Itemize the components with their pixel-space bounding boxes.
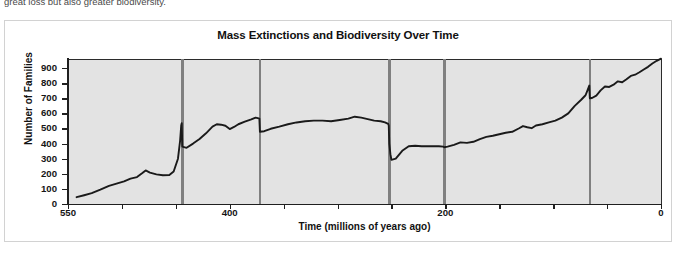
biodiversity-curve	[68, 59, 661, 204]
y-tick-mark	[62, 159, 67, 160]
y-tick-label: 200	[23, 169, 57, 179]
y-tick-mark	[62, 174, 67, 175]
x-axis-label: Time (millions of years ago)	[68, 221, 661, 232]
y-tick-mark	[62, 189, 67, 190]
y-tick-mark	[62, 113, 67, 114]
x-tick-mark	[553, 204, 554, 209]
x-tick-mark	[176, 204, 177, 209]
x-tick-mark	[391, 204, 392, 209]
y-tick-mark	[62, 83, 67, 84]
x-tick-mark	[338, 204, 339, 209]
y-tick-mark	[62, 144, 67, 145]
x-tick-label: 200	[423, 207, 467, 218]
x-tick-label: 400	[208, 207, 252, 218]
x-tick-label: 0	[639, 207, 681, 218]
y-tick-mark	[62, 68, 67, 69]
x-tick-mark	[499, 204, 500, 209]
y-tick-mark	[62, 98, 67, 99]
x-tick-label: 550	[46, 207, 90, 218]
y-tick-label: 100	[23, 184, 57, 194]
y-axis-label: Number of Families	[23, 29, 34, 169]
y-tick-mark	[62, 128, 67, 129]
plot-wrapper: 0100200300400500600700800900 5504002000 …	[5, 21, 673, 243]
x-tick-mark	[284, 204, 285, 209]
y-tick-mark	[62, 204, 67, 205]
figure-card: Mass Extinctions and Biodiversity Over T…	[4, 20, 672, 242]
x-tick-mark	[607, 204, 608, 209]
page-text-fragment: great loss but also greater biodiversity…	[4, 0, 404, 10]
screenshot-root: great loss but also greater biodiversity…	[0, 0, 681, 253]
x-tick-mark	[122, 204, 123, 209]
